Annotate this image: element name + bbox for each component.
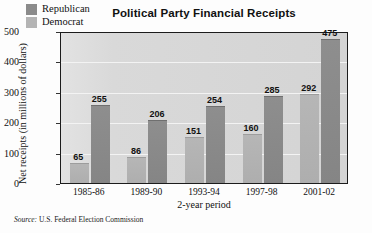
bar-republican-2001-02 xyxy=(321,39,340,183)
legend-item-republican: Republican xyxy=(26,3,90,15)
chart-legend: Republican Democrat xyxy=(26,3,90,28)
bar-democrat-1985-86 xyxy=(70,163,89,183)
gridline xyxy=(61,32,347,33)
x-axis-title: 2-year period xyxy=(60,199,348,210)
source-prefix: Source: xyxy=(14,215,37,224)
y-tick-label: 100 xyxy=(0,149,19,159)
legend-label-republican: Republican xyxy=(42,4,90,15)
chart-title: Political Party Financial Receipts xyxy=(60,7,348,19)
bar-republican-1997-98 xyxy=(264,96,283,183)
y-tick-mark xyxy=(56,154,60,155)
legend-swatch-republican xyxy=(26,4,37,15)
y-tick-label: 200 xyxy=(0,118,19,128)
gridline xyxy=(61,62,347,63)
bar-republican-1993-94 xyxy=(206,106,225,183)
y-tick-mark xyxy=(56,123,60,124)
y-tick-label: 300 xyxy=(0,88,19,98)
y-tick-label: 500 xyxy=(0,27,19,37)
x-tick-label: 2001-02 xyxy=(284,187,354,197)
bar-democrat-1997-98 xyxy=(243,134,262,183)
bar-democrat-1989-90 xyxy=(127,157,146,183)
bar-value-label: 160 xyxy=(236,124,267,133)
bar-value-label: 151 xyxy=(178,127,209,136)
source-note: Source: U.S. Federal Election Commission xyxy=(14,215,143,224)
plot-area xyxy=(60,32,348,184)
bar-value-label: 285 xyxy=(257,86,288,95)
bar-democrat-2001-02 xyxy=(300,94,319,183)
bar-democrat-1993-94 xyxy=(185,137,204,183)
y-tick-label: 0 xyxy=(0,179,19,189)
y-tick-mark xyxy=(56,32,60,33)
bar-value-label: 254 xyxy=(199,96,230,105)
bar-value-label: 206 xyxy=(141,110,172,119)
bar-value-label: 475 xyxy=(314,29,345,38)
bar-value-label: 86 xyxy=(120,147,151,156)
chart-figure: Political Party Financial Receipts Net r… xyxy=(0,0,372,233)
bar-value-label: 255 xyxy=(84,95,115,104)
source-text: U.S. Federal Election Commission xyxy=(39,215,143,224)
y-tick-mark xyxy=(56,62,60,63)
y-tick-mark xyxy=(56,93,60,94)
bar-value-label: 65 xyxy=(63,153,94,162)
bar-value-label: 292 xyxy=(293,84,324,93)
bar-republican-1985-86 xyxy=(91,105,110,183)
y-tick-mark xyxy=(56,184,60,185)
legend-item-democrat: Democrat xyxy=(26,16,90,28)
y-tick-label: 400 xyxy=(0,57,19,67)
legend-swatch-democrat xyxy=(26,17,37,28)
legend-label-democrat: Democrat xyxy=(42,17,83,28)
